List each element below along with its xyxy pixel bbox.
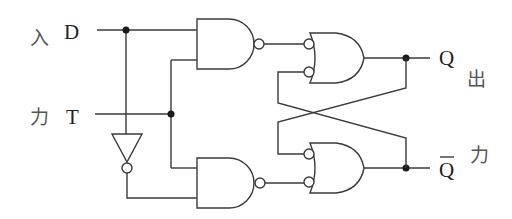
- inverter-bubble: [122, 163, 132, 173]
- or-gate-bottom: [304, 143, 430, 193]
- input-label-bottom-char: 力: [30, 106, 49, 128]
- or-top-bubble-1: [304, 39, 314, 49]
- or-gate-top: [304, 33, 430, 83]
- circuit-diagram: 入 D 力 T Q 出 Q 力: [0, 0, 512, 219]
- signal-label-d: D: [64, 20, 79, 44]
- output-label-bottom-char: 力: [470, 144, 489, 166]
- or-top-bubble-2: [304, 67, 314, 77]
- inverter-gate: [112, 134, 197, 198]
- or-bottom-bubble-1: [304, 149, 314, 159]
- wire-d: [97, 27, 197, 135]
- wire-t: [95, 60, 197, 168]
- nand-gate-bottom: [197, 158, 304, 208]
- nand-bottom-bubble: [255, 178, 265, 188]
- junction-d: [123, 27, 130, 34]
- nand-gate-top: [197, 19, 304, 69]
- junction-t: [168, 111, 175, 118]
- or-bottom-bubble-2: [304, 177, 314, 187]
- input-label-top-char: 入: [30, 27, 49, 49]
- signal-label-t: T: [66, 105, 79, 129]
- svg-text:Q: Q: [439, 158, 454, 182]
- signal-label-q: Q: [439, 46, 454, 70]
- nand-top-bubble: [254, 39, 264, 49]
- output-label-top-char: 出: [467, 68, 486, 90]
- signal-label-q-bar: Q: [439, 157, 454, 182]
